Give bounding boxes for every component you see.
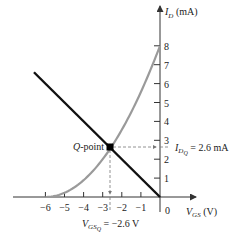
x-axis-label: VGS (V) [186,206,217,219]
x-tick-label: −6 [40,202,51,213]
transfer-curve [45,46,160,197]
y-tick-label: 6 [164,79,169,90]
y-tick-label: 4 [164,116,169,127]
x-tick-label: −2 [116,202,127,213]
y-tick-label: 2 [164,154,169,165]
jfet-bias-chart: −6−5−4−3−2−1 12345678 ID (mA) VGS (V) 0 … [0,0,245,248]
y-tick-label: 1 [164,173,169,184]
y-tick-label: 8 [164,41,169,52]
y-tick-label: 7 [164,60,169,71]
y-axis-label: ID (mA) [164,6,198,20]
x-tick-label: −5 [59,202,70,213]
q-point-marker [107,144,114,151]
y-tick-label: 3 [164,135,169,146]
x-tick-label: −1 [136,202,147,213]
x-tick-label: −4 [78,202,89,213]
idq-label: IDQ = 2.6 mA [174,142,229,156]
x-tick-label: −3 [97,202,108,213]
origin-label: 0 [165,205,170,216]
q-point-label: Q-point [73,141,104,152]
vgsq-label: VGSQ = −2.6 V [82,218,140,232]
y-axis-ticks: 12345678 [154,41,169,184]
y-tick-label: 5 [164,98,169,109]
